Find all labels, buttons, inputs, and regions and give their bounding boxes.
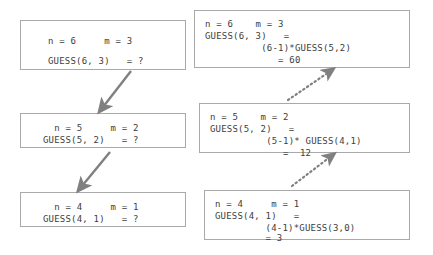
guess-5-2-call-line1: n = 5 m = 2	[43, 122, 139, 134]
guess-5-2-result-box: n = 5 m = 2 GUESS(5, 2) = (5-1)* GUESS(4…	[199, 103, 410, 153]
guess-4-1-call-box: n = 4 m = 1 GUESS(4, 1) = ?	[20, 192, 186, 227]
guess-4-1-result-line2: GUESS(4, 1) =	[215, 210, 299, 222]
guess-6-3-result-line3: (6-1)*GUESS(5,2)	[205, 42, 351, 54]
arrow-return-4to5	[292, 157, 330, 186]
recursion-trace-diagram: n = 6 m = 3 GUESS(6, 3) = ? n = 5 m = 2 …	[0, 0, 433, 255]
guess-6-3-result-box: n = 6 m = 3 GUESS(6, 3) = (6-1)*GUESS(5,…	[194, 10, 410, 68]
guess-5-2-result-line1: n = 5 m = 2	[210, 111, 289, 123]
guess-4-1-call-line1: n = 4 m = 1	[43, 201, 139, 213]
guess-5-2-call-line2: GUESS(5, 2) = ?	[43, 134, 139, 146]
arrow-call-5to4	[82, 152, 110, 186]
guess-6-3-result-line4: = 60	[205, 54, 301, 66]
guess-6-3-result-line2: GUESS(6, 3) =	[205, 30, 289, 42]
guess-6-3-call-line2: GUESS(6, 3) = ?	[48, 51, 144, 71]
guess-4-1-result-line1: n = 4 m = 1	[215, 198, 299, 210]
guess-4-1-result-line4: = 3	[215, 232, 282, 244]
guess-6-3-result-line1: n = 6 m = 3	[205, 18, 284, 30]
guess-6-3-call-box: n = 6 m = 3 GUESS(6, 3) = ?	[20, 20, 186, 70]
guess-5-2-result-line2: GUESS(5, 2) =	[210, 123, 294, 135]
guess-5-2-call-box: n = 5 m = 2 GUESS(5, 2) = ?	[20, 113, 186, 148]
arrow-return-5to6	[288, 72, 329, 100]
guess-6-3-call-line1: n = 6 m = 3	[48, 31, 132, 51]
guess-5-2-result-line3: (5-1)* GUESS(4,1)	[210, 135, 362, 147]
arrow-call-6to5	[103, 71, 131, 107]
guess-4-1-result-box: n = 4 m = 1 GUESS(4, 1) = (4-1)*GUESS(3,…	[204, 190, 410, 240]
guess-4-1-call-line2: GUESS(4, 1) = ?	[43, 213, 139, 225]
guess-5-2-result-line4: = 12	[210, 147, 311, 159]
